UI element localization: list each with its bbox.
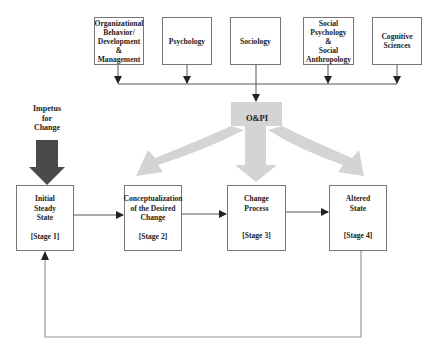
discipline-label: Behavior/	[103, 28, 135, 37]
stage-title: of the Desired	[125, 204, 181, 214]
discipline-box-sociology: Sociology	[230, 17, 281, 65]
discipline-label: Psychology	[169, 37, 205, 46]
stage-title: Conceptualization	[123, 194, 183, 204]
stage-box-2: Conceptualization of the Desired Change …	[124, 185, 182, 251]
opi-label: O&PI	[236, 114, 278, 124]
discipline-label: Development	[98, 37, 141, 46]
discipline-label: &	[116, 46, 122, 55]
stage-tag: [Stage 1]	[17, 232, 73, 242]
stage-title: Altered	[330, 194, 386, 204]
discipline-label: Anthropology	[306, 55, 351, 64]
impetus-arrow	[29, 140, 65, 185]
discipline-box-psychology: Psychology	[162, 17, 212, 65]
discipline-label: Cognitive	[381, 32, 412, 41]
impetus-line: Impetus	[22, 104, 72, 114]
impetus-line: for	[22, 114, 72, 124]
stage-box-4: Altered State [Stage 4]	[329, 185, 387, 251]
discipline-box-org-behavior: Organizational Behavior/ Development & M…	[94, 17, 144, 65]
stage-tag: [Stage 3]	[228, 231, 285, 241]
stage-title: State	[17, 213, 73, 223]
stage-title: State	[330, 204, 386, 214]
stage-title: Process	[228, 204, 285, 214]
discipline-label: Social	[319, 19, 338, 28]
stage-tag: [Stage 4]	[330, 231, 386, 241]
stage-box-1: Initial Steady State [Stage 1]	[16, 185, 74, 251]
discipline-label: Management	[98, 55, 141, 64]
discipline-label: &	[325, 37, 331, 46]
discipline-label: Organizational	[95, 19, 144, 28]
discipline-label: Psychology	[310, 28, 346, 37]
stage-title: Steady	[17, 204, 73, 214]
impetus-label: Impetus for Change	[22, 104, 72, 133]
discipline-box-cognitive-sciences: Cognitive Sciences	[372, 17, 422, 65]
impetus-line: Change	[22, 123, 72, 133]
feedback-loop	[45, 250, 361, 337]
discipline-box-social-psychology: Social Psychology & Social Anthropology	[303, 17, 354, 65]
stage-title: Change	[125, 213, 181, 223]
stage-title: Change	[228, 194, 285, 204]
stage-box-3: Change Process [Stage 3]	[227, 185, 286, 251]
stage-tag: [Stage 2]	[125, 232, 181, 242]
stage-title: Initial	[17, 194, 73, 204]
discipline-label: Social	[319, 46, 338, 55]
discipline-label: Sciences	[384, 41, 411, 50]
discipline-label: Sociology	[240, 37, 271, 46]
